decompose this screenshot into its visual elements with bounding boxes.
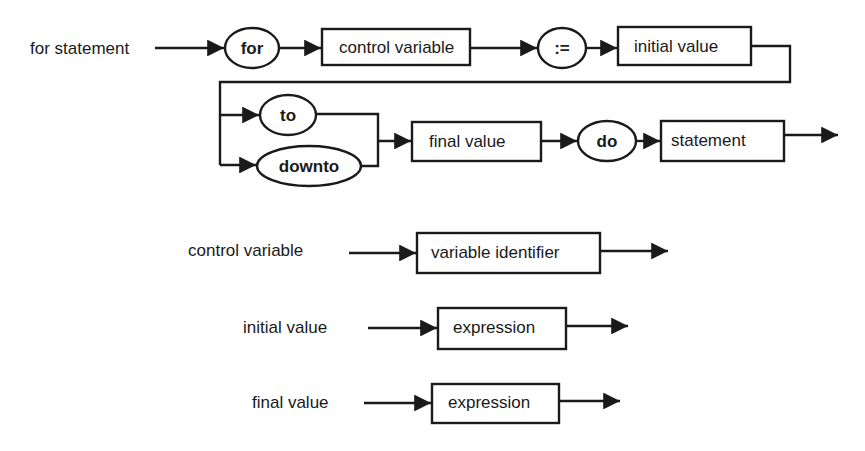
svg-text:for: for — [241, 39, 264, 58]
svg-text:statement: statement — [671, 131, 746, 150]
svg-text:to: to — [280, 106, 296, 125]
rule-name-final-value: final value — [252, 393, 329, 412]
svg-text:expression: expression — [448, 393, 530, 412]
final-value-rule: final value expression — [252, 384, 620, 423]
nonterminal-initial-value: initial value — [618, 27, 751, 65]
nonterminal-expression: expression — [438, 308, 566, 349]
terminal-for: for — [225, 28, 279, 68]
svg-text:final value: final value — [429, 132, 506, 151]
svg-text:variable identifier: variable identifier — [431, 243, 560, 262]
control-variable-rule: control variable variable identifier — [188, 233, 668, 273]
nonterminal-expression: expression — [432, 384, 559, 423]
svg-text:initial value: initial value — [634, 37, 718, 56]
syntax-diagram: for statement for control variable := in… — [0, 0, 865, 451]
nonterminal-control-variable: control variable — [322, 29, 470, 65]
rule-name-initial-value: initial value — [243, 318, 327, 337]
terminal-do: do — [578, 121, 636, 161]
svg-text:expression: expression — [453, 318, 535, 337]
svg-text:do: do — [597, 132, 618, 151]
rule-name-for-statement: for statement — [30, 39, 129, 58]
terminal-downto: downto — [257, 146, 361, 186]
terminal-to: to — [260, 95, 316, 135]
rule-name-control-variable: control variable — [188, 241, 303, 260]
svg-text::=: := — [554, 39, 570, 58]
nonterminal-statement: statement — [661, 121, 784, 161]
initial-value-rule: initial value expression — [243, 308, 628, 349]
svg-text:control variable: control variable — [339, 38, 454, 57]
for-statement-rule: for statement for control variable := in… — [30, 27, 838, 186]
nonterminal-final-value: final value — [412, 122, 541, 161]
terminal-assign: := — [538, 28, 586, 68]
nonterminal-variable-identifier: variable identifier — [417, 233, 600, 273]
svg-text:downto: downto — [279, 157, 339, 176]
